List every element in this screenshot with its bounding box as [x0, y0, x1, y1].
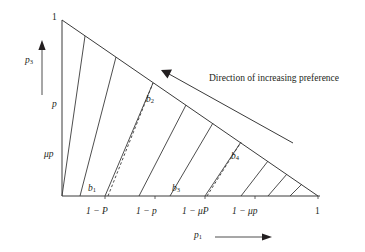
y-axis-arrow-icon — [38, 40, 45, 95]
figure-container: p3 p1 1 p μp 1 − P 1 − p 1 − μP 1 − μp 1… — [0, 0, 365, 252]
x-tick-label-1-minus-P: 1 − P — [86, 207, 108, 217]
x-tick-label-1-minus-muP: 1 − μP — [182, 207, 208, 217]
indifference-lines-solid — [62, 36, 302, 196]
x-axis-arrow-icon — [215, 233, 272, 240]
y-axis-title: p3 — [25, 56, 33, 66]
point-label-b4: b4 — [231, 152, 239, 162]
y-axis-title-sub: 3 — [30, 58, 33, 65]
point-label-b1: b1 — [88, 184, 96, 194]
x-tick-label-1-minus-p: 1 − p — [136, 207, 157, 217]
x-axis-title: p1 — [194, 231, 202, 241]
point-label-b1-sub: 1 — [93, 186, 96, 193]
y-tick-label-mup: μp — [44, 150, 54, 160]
point-label-b3-sub: 3 — [177, 186, 180, 193]
triangle-outline — [62, 20, 320, 196]
preference-direction-label: Direction of increasing preference — [209, 73, 339, 83]
point-label-b2-sub: 2 — [151, 97, 154, 104]
point-label-b2: b2 — [146, 95, 154, 105]
x-tick-label-1-minus-mup: 1 − μp — [232, 207, 257, 217]
indifference-lines-dashed — [108, 83, 241, 196]
x-axis-title-sub: 1 — [199, 233, 202, 240]
y-tick-label-p: p — [52, 100, 57, 110]
point-label-b4-sub: 4 — [236, 154, 239, 161]
x-tick-label-1: 1 — [315, 207, 320, 217]
point-label-b3: b3 — [172, 184, 180, 194]
y-tick-label-1: 1 — [52, 13, 57, 23]
